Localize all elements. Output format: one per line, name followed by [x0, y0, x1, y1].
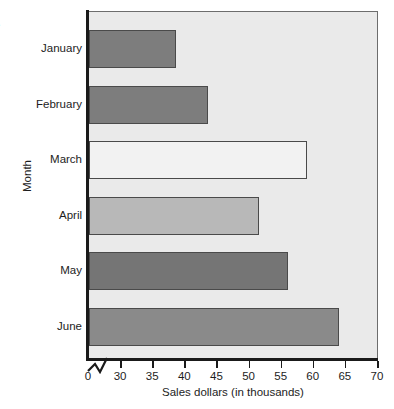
x-axis-title: Sales dollars (in thousands): [88, 386, 378, 398]
y-axis-spine: [86, 10, 89, 361]
x-tick-mark-60: [313, 361, 315, 368]
x-tick-label-65: 65: [330, 370, 360, 382]
x-tick-label-60: 60: [298, 370, 328, 382]
y-axis-label-april: April: [59, 209, 82, 221]
y-axis-label-may: May: [60, 264, 82, 276]
y-axis-label-march: March: [50, 153, 82, 165]
x-tick-label-70: 70: [362, 370, 392, 382]
bar-april: [89, 197, 259, 235]
x-tick-mark-45: [216, 361, 218, 368]
bar-march: [89, 141, 307, 179]
plot-area: [88, 11, 378, 359]
x-tick-label-55: 55: [266, 370, 296, 382]
x-tick-mark-35: [152, 361, 154, 368]
x-axis-spine: [86, 358, 378, 361]
x-tick-mark-70: [377, 361, 379, 368]
bar-february: [89, 86, 208, 124]
x-tick-label-40: 40: [169, 370, 199, 382]
x-tick-label-50: 50: [234, 370, 264, 382]
bar-january: [89, 30, 176, 68]
axis-break-icon: [86, 352, 120, 374]
y-axis-title: Month: [21, 146, 33, 206]
y-axis-label-february: February: [36, 98, 82, 110]
bar-chart: e JanuaryFebruaryMarchAprilMayJune Month…: [0, 0, 394, 409]
x-tick-mark-40: [184, 361, 186, 368]
x-tick-mark-50: [249, 361, 251, 368]
x-tick-label-35: 35: [137, 370, 167, 382]
y-axis-label-january: January: [41, 42, 82, 54]
x-tick-label-45: 45: [201, 370, 231, 382]
x-tick-mark-30: [120, 361, 122, 368]
bar-june: [89, 308, 339, 346]
bar-may: [89, 252, 288, 290]
y-axis-label-june: June: [57, 320, 82, 332]
x-tick-mark-65: [345, 361, 347, 368]
x-tick-mark-55: [281, 361, 283, 368]
